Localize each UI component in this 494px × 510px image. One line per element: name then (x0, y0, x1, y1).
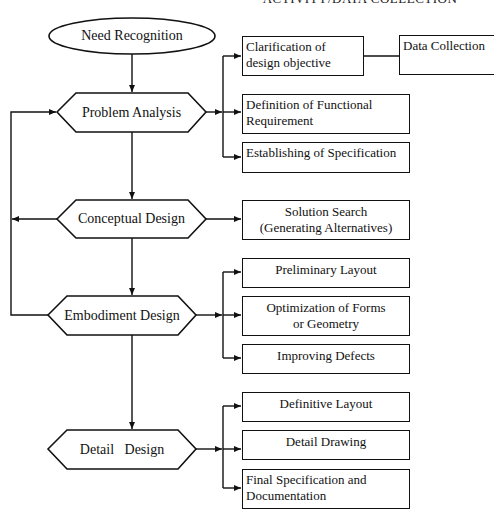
detail-drawing-box: Detail Drawing (242, 430, 410, 460)
data-collection-box: Data Collection (399, 35, 494, 75)
specification-label: Establishing of Specification (246, 145, 396, 160)
functional-requirement-box: Definition of Functional Requirement (242, 94, 410, 134)
embodiment-design-node: Embodiment Design (48, 296, 196, 335)
functional-requirement-label: Definition of Functional Requirement (246, 97, 372, 128)
embodiment-design-label: Embodiment Design (64, 308, 180, 324)
specification-box: Establishing of Specification (242, 142, 410, 173)
final-specification-label: Final Specification and Documentation (246, 472, 367, 503)
data-collection-label: Data Collection (403, 38, 485, 53)
conceptual-design-label: Conceptual Design (78, 211, 185, 227)
definitive-layout-label: Definitive Layout (246, 396, 406, 412)
solution-search-box: Solution Search (Generating Alternatives… (242, 200, 410, 240)
definitive-layout-box: Definitive Layout (242, 392, 410, 422)
optimization-line2: or Geometry (246, 316, 406, 332)
preliminary-layout-label: Preliminary Layout (246, 262, 406, 278)
clarification-label: Clarification of design objective (246, 39, 331, 70)
detail-drawing-label: Detail Drawing (246, 434, 406, 450)
need-recognition-node: Need Recognition (49, 18, 215, 54)
need-recognition-label: Need Recognition (81, 28, 182, 44)
improving-defects-label: Improving Defects (246, 348, 406, 364)
improving-defects-box: Improving Defects (242, 344, 410, 374)
clarification-box: Clarification of design objective (242, 36, 364, 76)
optimization-box: Optimization of Forms or Geometry (242, 296, 410, 336)
problem-analysis-label: Problem Analysis (82, 105, 181, 121)
solution-search-line2: (Generating Alternatives) (246, 220, 406, 236)
optimization-line1: Optimization of Forms (246, 300, 406, 316)
final-specification-box: Final Specification and Documentation (242, 469, 410, 509)
detail-design-node: Detail Design (48, 430, 196, 469)
conceptual-design-node: Conceptual Design (57, 200, 206, 238)
problem-analysis-node: Problem Analysis (57, 93, 206, 132)
detail-design-label: Detail Design (80, 442, 164, 458)
preliminary-layout-box: Preliminary Layout (242, 258, 410, 288)
solution-search-line1: Solution Search (246, 204, 406, 220)
